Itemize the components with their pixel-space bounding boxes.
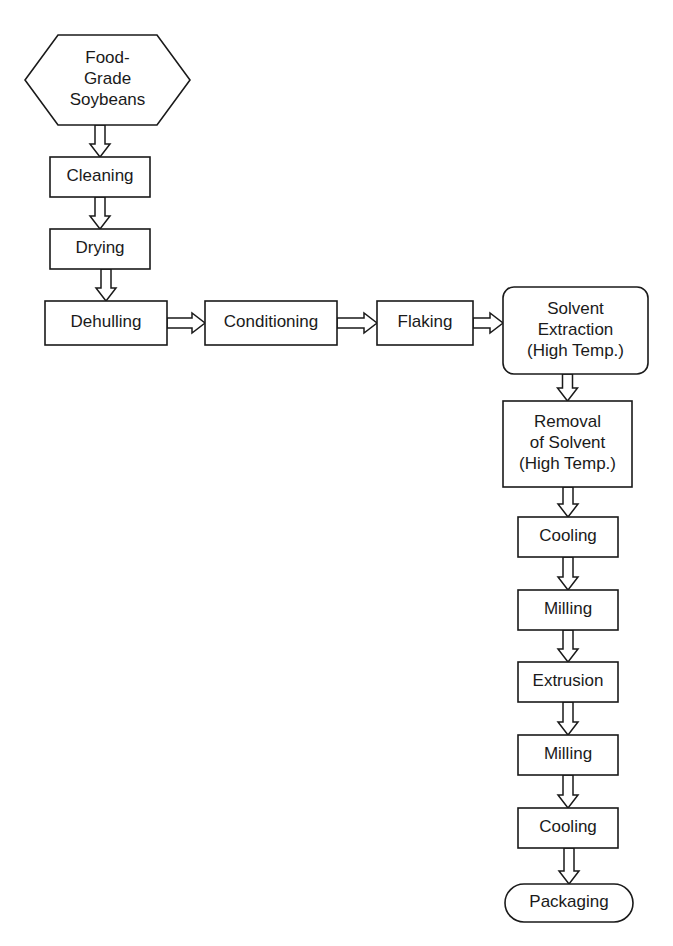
edge-extrusion-to-milling-2 (558, 702, 578, 735)
node-milling-1-label-line-0: Milling (544, 599, 592, 618)
node-milling-2-label: Milling (544, 744, 592, 763)
node-flaking-label-line-0: Flaking (398, 312, 453, 331)
node-dehulling-label: Dehulling (71, 312, 142, 331)
node-food-grade-soybeans-label-line-2: Soybeans (70, 90, 146, 109)
edge-cooling-2-to-packaging (559, 848, 579, 884)
node-packaging-label: Packaging (529, 892, 608, 911)
node-extrusion-label: Extrusion (533, 671, 604, 690)
edge-soybeans-to-cleaning (90, 125, 110, 157)
edge-cleaning-to-drying (90, 197, 110, 229)
edges-layer (90, 125, 579, 884)
node-milling-2-label-line-0: Milling (544, 744, 592, 763)
node-cooling-1-label: Cooling (539, 526, 597, 545)
node-conditioning[interactable]: Conditioning (205, 301, 337, 345)
node-cleaning[interactable]: Cleaning (50, 157, 150, 197)
node-food-grade-soybeans-label-line-1: Grade (84, 69, 131, 88)
node-cooling-2[interactable]: Cooling (518, 808, 618, 848)
edge-conditioning-to-flaking (337, 313, 377, 333)
node-cooling-1[interactable]: Cooling (518, 517, 618, 557)
edge-drying-to-dehulling (96, 269, 116, 301)
edge-cooling-1-to-milling-1 (558, 557, 578, 590)
node-solvent-extraction-label-line-1: Extraction (538, 320, 614, 339)
node-conditioning-label: Conditioning (224, 312, 319, 331)
node-dehulling[interactable]: Dehulling (45, 301, 167, 345)
edge-milling-2-to-cooling-2 (558, 775, 578, 808)
edge-removal-to-cooling-1 (558, 487, 578, 517)
node-extrusion-label-line-0: Extrusion (533, 671, 604, 690)
edge-milling-1-to-extrusion (558, 630, 578, 662)
node-solvent-extraction[interactable]: SolventExtraction(High Temp.) (503, 287, 648, 374)
node-food-grade-soybeans-label-line-0: Food- (85, 48, 129, 67)
node-solvent-extraction-label-line-0: Solvent (547, 299, 604, 318)
flowchart-diagram: Food-GradeSoybeansCleaningDryingDehullin… (0, 0, 673, 946)
edge-solvent-extraction-to-removal (558, 374, 578, 401)
node-extrusion[interactable]: Extrusion (518, 662, 618, 702)
node-conditioning-label-line-0: Conditioning (224, 312, 319, 331)
node-dehulling-label-line-0: Dehulling (71, 312, 142, 331)
node-removal-of-solvent[interactable]: Removalof Solvent(High Temp.) (503, 401, 632, 487)
node-drying[interactable]: Drying (50, 229, 150, 269)
node-cleaning-label: Cleaning (66, 166, 133, 185)
node-milling-1-label: Milling (544, 599, 592, 618)
node-packaging-label-line-0: Packaging (529, 892, 608, 911)
node-drying-label-line-0: Drying (75, 238, 124, 257)
node-milling-2[interactable]: Milling (518, 735, 618, 775)
edge-dehulling-to-conditioning (167, 313, 205, 333)
node-milling-1[interactable]: Milling (518, 590, 618, 630)
node-removal-of-solvent-label-line-0: Removal (534, 412, 601, 431)
node-cleaning-label-line-0: Cleaning (66, 166, 133, 185)
node-cooling-2-label: Cooling (539, 817, 597, 836)
node-cooling-1-label-line-0: Cooling (539, 526, 597, 545)
node-solvent-extraction-label-line-2: (High Temp.) (527, 341, 624, 360)
node-removal-of-solvent-label-line-2: (High Temp.) (519, 454, 616, 473)
node-cooling-2-label-line-0: Cooling (539, 817, 597, 836)
node-packaging[interactable]: Packaging (505, 884, 633, 922)
node-flaking-label: Flaking (398, 312, 453, 331)
flowchart-canvas: Food-GradeSoybeansCleaningDryingDehullin… (0, 0, 673, 946)
nodes-layer: Food-GradeSoybeansCleaningDryingDehullin… (25, 35, 648, 922)
node-removal-of-solvent-label-line-1: of Solvent (530, 433, 606, 452)
node-food-grade-soybeans[interactable]: Food-GradeSoybeans (25, 35, 190, 125)
edge-flaking-to-solvent-extraction (473, 313, 503, 333)
node-drying-label: Drying (75, 238, 124, 257)
node-flaking[interactable]: Flaking (377, 301, 473, 345)
